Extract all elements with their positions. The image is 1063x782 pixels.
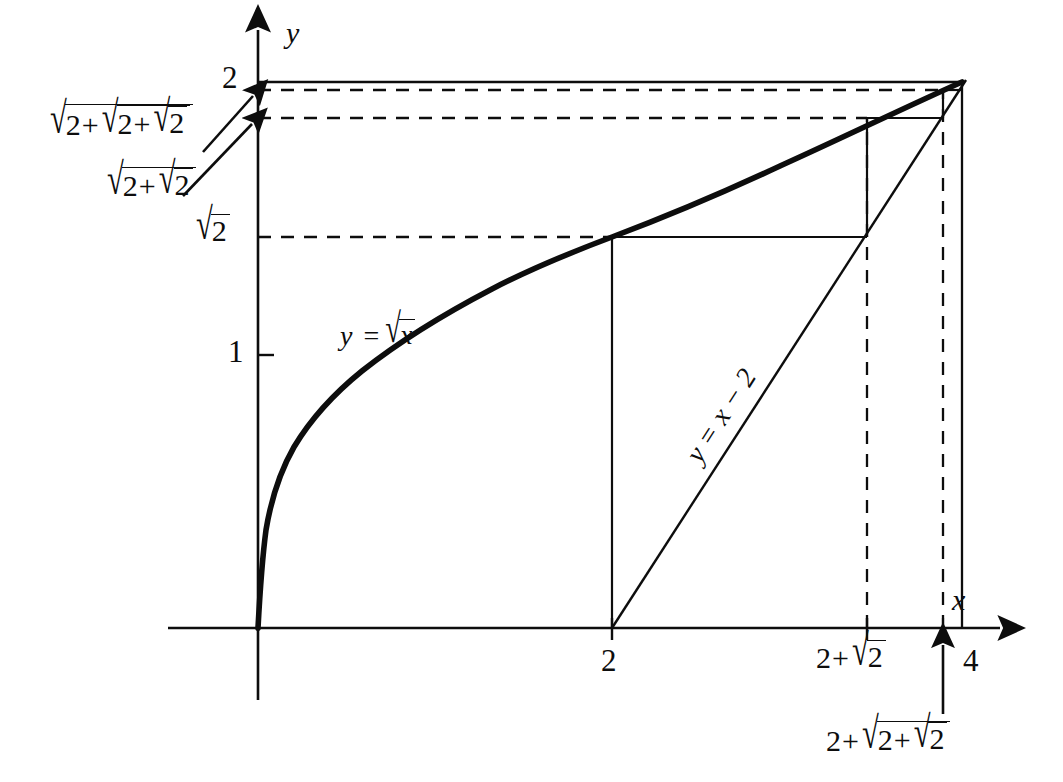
vertical-guides [867, 82, 962, 628]
x-tick-label-2: 2 [601, 645, 617, 676]
x-tick-label-4: 4 [963, 645, 979, 676]
radical-inner: √2 [151, 107, 187, 140]
horizontal-guides [258, 82, 962, 237]
plus-sign: + [133, 107, 152, 140]
callout-label-y-level-2: √2+√2 [105, 168, 196, 203]
radicand: 2 [867, 640, 886, 672]
radicand-x: x [399, 319, 415, 349]
radical-inner: √2 [912, 723, 948, 756]
radicand-outer: 2+√2 [877, 721, 951, 756]
radicand-inner: 2 [928, 722, 947, 754]
plus-sign: + [893, 723, 912, 756]
plus-sign: + [138, 169, 157, 202]
plus-sign: + [841, 724, 860, 757]
radical-outer: √2+√2+√2 [48, 105, 193, 142]
radicand-inner: 2 [174, 168, 193, 200]
callout-label-x-nested: 2+√2+√2 [826, 722, 950, 757]
plus-sign: + [831, 641, 850, 674]
y-axis-label: y [286, 18, 299, 48]
radical-outer: √2+√2 [105, 168, 196, 203]
x-axis-label: x [952, 585, 965, 615]
term-two: 2 [66, 108, 81, 141]
radical-middle: √2+√2 [100, 106, 191, 141]
callout-arrows [183, 96, 943, 714]
radical-outer: √2+√2 [860, 722, 951, 757]
figure-canvas: y x 2 1 √2 √2+√2+√2 √2+√2 2 2+√2 4 2+√2+… [0, 0, 1063, 782]
radicand-outer: 2+√2 [122, 167, 196, 202]
tick-marks [258, 355, 943, 640]
radicand: 2 [211, 214, 230, 246]
y-tick-label-1: 1 [228, 336, 244, 367]
arrow-to-level3 [203, 96, 253, 152]
radical-sqrt2: √2 [850, 641, 886, 674]
radicand-middle: 2+√2 [117, 105, 191, 140]
radicand-outer: 2+√2+√2 [65, 104, 193, 141]
radical-inner: √2 [157, 169, 193, 202]
x-tick-label-2-plus-sqrt2: 2+√2 [816, 641, 886, 674]
equals-sign: = [359, 320, 383, 351]
radical-sqrt2: √2 [194, 215, 230, 248]
radicand-inner: 2 [168, 106, 187, 138]
radical-x: √x [383, 320, 415, 351]
curve-label-sqrt: y =√x [340, 320, 415, 351]
y-tick-label-2: 2 [222, 62, 238, 93]
term-two: 2 [118, 107, 133, 140]
lhs-y: y [340, 320, 352, 351]
term-two: 2 [816, 641, 831, 674]
term-two: 2 [123, 169, 138, 202]
term-two: 2 [826, 724, 841, 757]
callout-label-y-level-3: √2+√2+√2 [48, 105, 193, 142]
plus-sign: + [81, 108, 100, 141]
axis-lines [168, 30, 1000, 700]
y-tick-label-sqrt2: √2 [194, 215, 230, 248]
curve-y-equals-sqrt-x [258, 82, 962, 628]
term-two: 2 [878, 723, 893, 756]
